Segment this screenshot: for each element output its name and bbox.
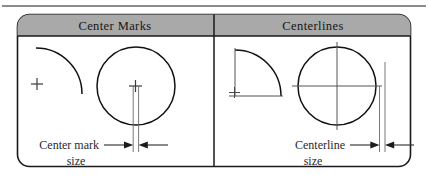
caption-centerline-line1: Centerline [295,138,345,152]
right-dimension-annotation [350,142,414,149]
quarter-arc-shape-right [235,50,281,96]
caption-center-mark-line2: size [67,154,86,168]
caption-center-mark-line1: Center mark [39,138,99,152]
figure-container: Center Marks [0,0,428,178]
arrowhead-right [124,142,133,149]
left-dimension-annotation [104,142,168,149]
right-panel-geometry [229,42,385,152]
left-panel-geometry [31,47,175,152]
panel-header-center-marks: Center Marks [78,19,151,33]
quarter-arc-shape [36,48,82,94]
caption-centerline-line2: size [304,154,323,168]
arrowhead-left [139,142,148,149]
arc-center-mark [31,78,43,90]
comparison-diagram: Center Marks [0,0,428,178]
panel-header-centerlines: Centerlines [282,19,343,33]
arrowhead-left-right-panel [385,142,394,149]
circle-center-mark [129,80,142,92]
arrowhead-right-right-panel [370,142,379,149]
